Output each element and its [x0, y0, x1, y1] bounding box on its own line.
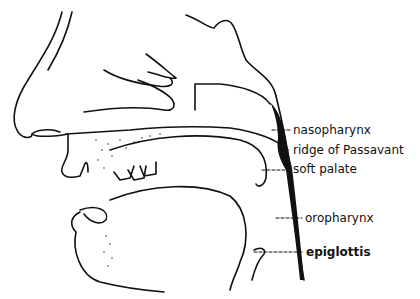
epiglottis-shape	[252, 248, 265, 280]
upper-teeth	[114, 162, 156, 180]
lower-lip	[80, 208, 107, 223]
label-oropharynx: oropharynx	[305, 212, 374, 224]
label-epiglottis: epiglottis	[306, 246, 371, 258]
label-soft-palate: soft palate	[293, 163, 357, 175]
upper-lip	[32, 134, 88, 177]
jaw	[72, 212, 164, 292]
sphenoid	[195, 84, 270, 110]
label-nasopharynx: nasopharynx	[293, 124, 371, 136]
label-ridge-of-passavant: ridge of Passavant	[293, 144, 404, 156]
turbinate-upper	[146, 54, 176, 78]
turbinate-lower	[84, 80, 174, 112]
tongue-dorsum	[110, 187, 246, 290]
turbinate-middle	[104, 70, 172, 87]
nose-outline	[14, 12, 62, 138]
